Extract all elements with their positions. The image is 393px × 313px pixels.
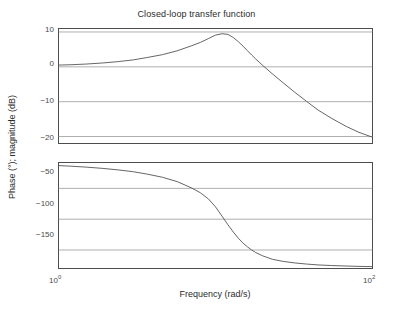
page-title: Closed-loop transfer function xyxy=(0,9,393,19)
magnitude-curve xyxy=(59,34,373,138)
magnitude-ytick-0: 0 xyxy=(28,59,54,68)
xtick-left: 100 xyxy=(49,274,61,285)
magnitude-ytick-10: 10 xyxy=(28,25,54,34)
phase-axes-frame xyxy=(59,163,373,269)
magnitude-axes xyxy=(59,29,373,144)
magnitude-ytick-minus10: −10 xyxy=(28,96,54,105)
bode-plot-figure: Closed-loop transfer function Phase (°);… xyxy=(0,0,393,313)
magnitude-gridlines xyxy=(59,32,373,137)
xtick-left-base: 10 xyxy=(49,276,58,285)
xtick-right: 102 xyxy=(363,274,375,285)
plot-canvas xyxy=(0,0,393,313)
phase-axes xyxy=(59,163,373,269)
xtick-left-exponent: 0 xyxy=(58,274,61,280)
phase-ytick-minus150: −150 xyxy=(25,230,54,239)
phase-curve xyxy=(59,166,373,267)
phase-ytick-minus50: −50 xyxy=(25,167,54,176)
phase-ytick-minus100: −100 xyxy=(25,199,54,208)
y-axis-label: Phase (°); magnitude (dB) xyxy=(7,47,17,247)
magnitude-ytick-minus20: −20 xyxy=(28,133,54,142)
phase-gridlines xyxy=(59,188,373,250)
magnitude-axes-frame xyxy=(59,29,373,144)
xtick-right-exponent: 2 xyxy=(372,274,375,280)
xtick-right-base: 10 xyxy=(363,276,372,285)
x-axis-label: Frequency (rad/s) xyxy=(58,289,372,299)
